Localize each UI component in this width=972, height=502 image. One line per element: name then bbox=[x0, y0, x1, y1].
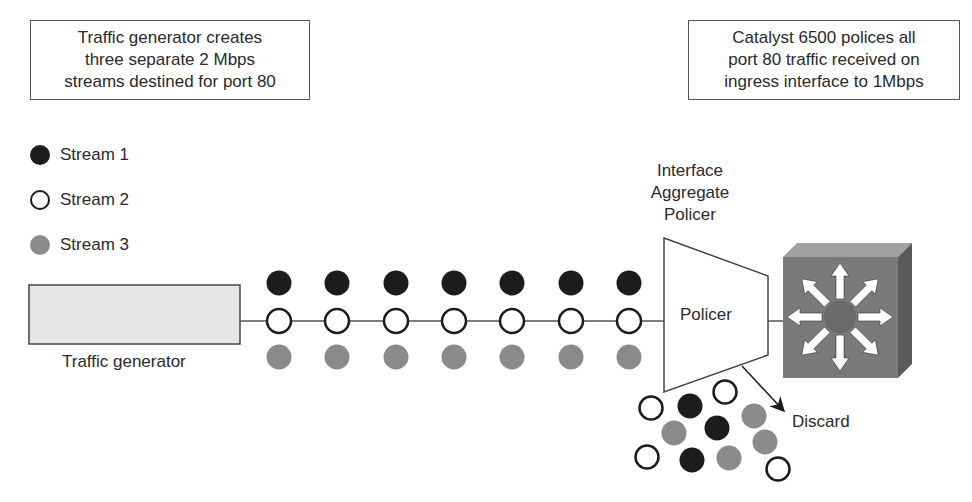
stream-1-packets bbox=[267, 271, 642, 296]
policer-title-line: Interface bbox=[620, 160, 760, 182]
policer-title-line: Policer bbox=[620, 204, 760, 226]
discarded-packets bbox=[636, 381, 790, 481]
layer3-switch-icon bbox=[783, 243, 912, 378]
policer-title-line: Aggregate bbox=[620, 182, 760, 204]
policer-title: Interface Aggregate Policer bbox=[620, 160, 760, 226]
traffic-generator-box bbox=[29, 285, 240, 344]
stream-3-packets bbox=[267, 345, 642, 370]
policer-label: Policer bbox=[680, 305, 732, 325]
traffic-generator-label: Traffic generator bbox=[62, 352, 186, 372]
discard-label: Discard bbox=[792, 412, 850, 432]
discard-arrow bbox=[742, 366, 783, 410]
